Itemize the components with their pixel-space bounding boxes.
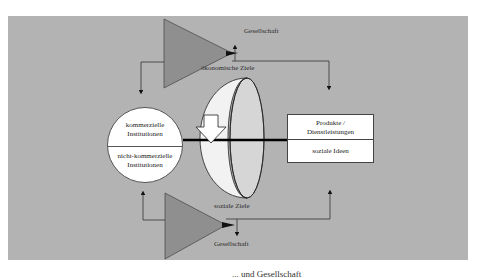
top-triangle-icon [164, 19, 232, 88]
noncommercial-institutions-label: nicht-kommerzielle Institutionen [108, 152, 182, 170]
commercial-institutions-label: kommerzielle Institutionen [108, 121, 182, 139]
products-services-label: Produkte / Dienstleistungen [288, 119, 373, 137]
institutions-circle: kommerzielle Institutionen nicht-kommerz… [107, 107, 183, 183]
diagram-graphics [0, 0, 484, 278]
offerings-box: Produkte / Dienstleistungen soziale Idee… [287, 114, 374, 163]
figure-caption: ... und Gesellschaft [232, 269, 301, 278]
social-goals-label: soziale Ziele [214, 202, 250, 210]
economic-goals-label: ökonomische Ziele [201, 64, 254, 72]
social-ideas-label: soziale Ideen [288, 147, 373, 155]
circle-divider [108, 146, 182, 147]
top-society-label: Gesellschaft [244, 27, 279, 35]
box-divider [288, 139, 373, 140]
bottom-society-label: Gesellschaft [214, 240, 249, 248]
